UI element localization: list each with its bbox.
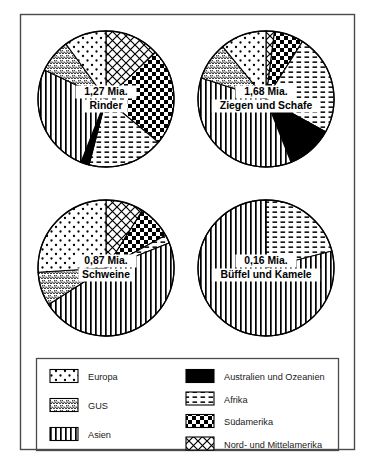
legend-item-nordamerika[interactable]: Nord- und Mittelamerika [186, 437, 323, 450]
pie-value-label: 0,16 Mia. [244, 255, 287, 266]
pie-name-label: Schweine [82, 269, 130, 280]
pie-value-label: 0,87 Mia. [84, 255, 127, 266]
legend-swatch-afrika [186, 392, 214, 405]
pie-chart-figure: 1,27 Mia.Rinder1,68 Mia.Ziegen und Schaf… [0, 0, 374, 472]
pie-value-label: 1,27 Mia. [84, 86, 127, 97]
legend-swatch-australien [186, 370, 214, 383]
pies-layer: 1,27 Mia.Rinder1,68 Mia.Ziegen und Schaf… [38, 31, 334, 336]
pie-name-label: Ziegen und Schafe [220, 100, 313, 111]
legend-item-suedamerika[interactable]: Südamerika [186, 415, 274, 428]
pie-chart-ziegen-schafe: 1,68 Mia.Ziegen und Schafe [198, 31, 334, 167]
legend-swatch-suedamerika [186, 415, 214, 428]
legend-swatch-europa [50, 370, 78, 383]
pie-name-label: Rinder [90, 100, 123, 111]
legend-label-suedamerika: Südamerika [224, 417, 274, 427]
legend-item-afrika[interactable]: Afrika [186, 392, 248, 405]
legend-item-australien[interactable]: Australien und Ozeanien [186, 370, 325, 383]
pie-chart-bueffel-kamele: 0,16 Mia.Büffel und Kamele [198, 200, 334, 336]
pie-value-label: 1,68 Mia. [244, 86, 287, 97]
pie-chart-schweine: 0,87 Mia.Schweine [38, 200, 174, 336]
legend-swatch-asien [50, 428, 78, 441]
legend-item-europa[interactable]: Europa [50, 370, 119, 383]
legend-label-australien: Australien und Ozeanien [224, 372, 325, 382]
legend-label-gus: GUS [88, 401, 108, 411]
pie-chart-rinder: 1,27 Mia.Rinder [38, 31, 174, 167]
legend-swatch-nordamerika [186, 437, 214, 450]
legend-label-europa: Europa [88, 372, 119, 382]
legend-label-asien: Asien [88, 430, 111, 440]
legend-item-gus[interactable]: GUS [50, 399, 108, 412]
legend-layer: EuropaGUSAsienAustralien und OzeanienAfr… [50, 370, 325, 451]
legend-item-asien[interactable]: Asien [50, 428, 111, 441]
legend-swatch-gus [50, 399, 78, 412]
legend-label-nordamerika: Nord- und Mittelamerika [224, 440, 323, 450]
pie-name-label: Büffel und Kamele [220, 269, 311, 280]
legend-label-afrika: Afrika [224, 395, 248, 405]
